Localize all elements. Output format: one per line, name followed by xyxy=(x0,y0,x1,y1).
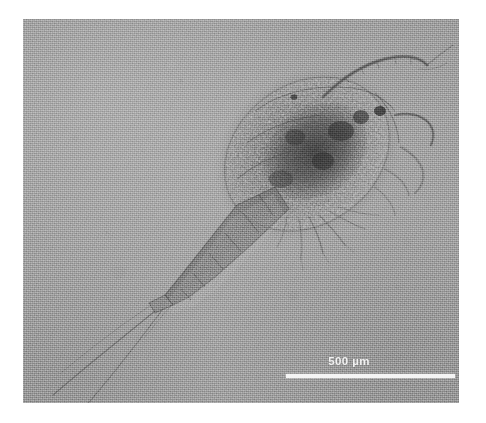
figure-page: 500 µm xyxy=(0,0,486,423)
micrograph-image: 500 µm xyxy=(23,19,459,403)
scale-bar-line xyxy=(286,374,455,378)
scale-bar-label: 500 µm xyxy=(263,355,435,367)
image-grain-noise xyxy=(23,19,459,403)
scale-bar: 500 µm xyxy=(263,355,435,387)
